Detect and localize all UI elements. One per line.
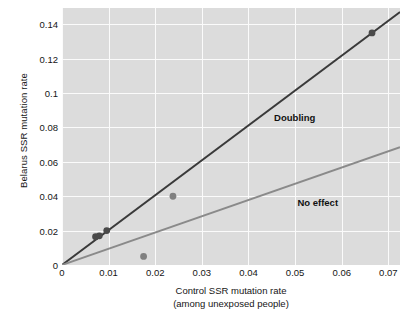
line-label-doubling: Doubling [274,112,315,123]
line-label-no-effect: No effect [297,197,338,208]
y-tick-label: 0.14 [14,19,58,30]
y-tick-label: 0.04 [14,191,58,202]
x-axis-title: Control SSR mutation rate (among unexpos… [62,285,400,310]
y-tick-label: 0.02 [14,225,58,236]
plot-svg [62,8,400,265]
data-point [140,253,147,260]
x-tick-label: 0.04 [239,267,258,278]
x-axis-title-sub: (among unexposed people) [62,298,400,311]
y-tick-label: 0.06 [14,156,58,167]
data-point [170,193,177,200]
reference-line-doubling [62,12,400,265]
chart-figure: Belarus SSR mutation rate 00.020.040.060… [0,0,406,322]
y-axis-tick-labels: 00.020.040.060.080.10.120.14 [14,8,58,265]
x-tick-label: 0.02 [146,267,165,278]
y-tick-label: 0.1 [14,88,58,99]
x-tick-label: 0.05 [286,267,305,278]
x-tick-label: 0 [59,267,64,278]
x-tick-label: 0.01 [99,267,118,278]
plot-area: DoublingNo effect [62,8,400,265]
x-axis-title-main: Control SSR mutation rate [62,285,400,298]
x-axis-tick-labels: 00.010.020.030.040.050.060.07 [62,267,400,283]
x-tick-label: 0.07 [379,267,398,278]
y-tick-label: 0 [14,260,58,271]
y-tick-label: 0.12 [14,53,58,64]
y-tick-label: 0.08 [14,122,58,133]
x-tick-label: 0.06 [332,267,351,278]
data-point [103,227,110,234]
data-point [369,30,376,37]
x-tick-label: 0.03 [193,267,212,278]
data-point [96,232,103,239]
reference-line-no-effect [62,147,400,265]
